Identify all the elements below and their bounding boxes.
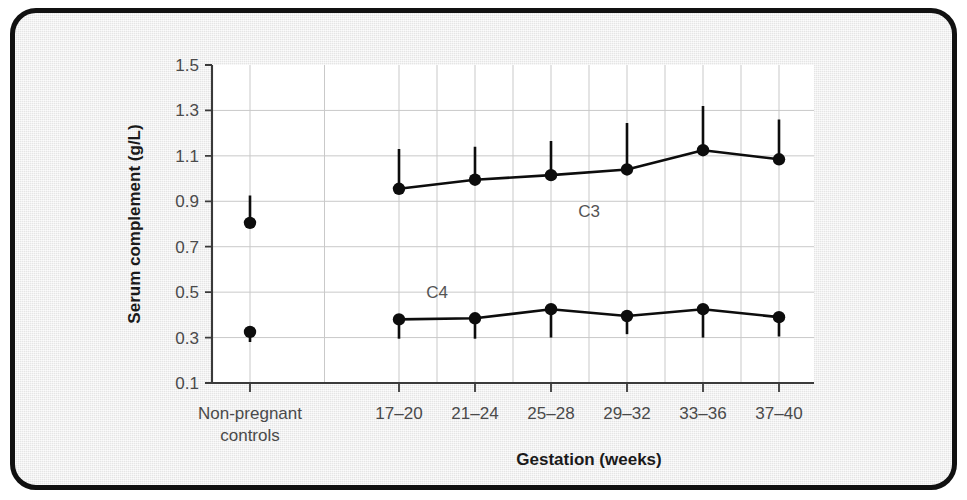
x-axis-tick-labels: Non-pregnantcontrols17–2021–2425–2829–32…	[198, 404, 803, 445]
data-point-marker	[621, 163, 633, 175]
data-point-marker	[469, 174, 481, 186]
data-point-marker	[773, 311, 785, 323]
data-point-marker	[244, 217, 256, 229]
y-tick-label: 0.7	[175, 238, 199, 257]
series-label-c4: C4	[426, 283, 448, 302]
data-point-marker	[469, 312, 481, 324]
series-label-c3: C3	[578, 202, 600, 221]
x-tick-label: 33–36	[679, 404, 726, 423]
y-tick-label: 0.1	[175, 374, 199, 393]
data-point-marker	[697, 303, 709, 315]
y-tick-label: 0.5	[175, 283, 199, 302]
x-tick-label: 21–24	[451, 404, 498, 423]
y-tick-label: 0.3	[175, 329, 199, 348]
y-tick-label: 0.9	[175, 192, 199, 211]
data-point-marker	[545, 303, 557, 315]
x-tick-label: controls	[220, 426, 280, 445]
y-axis-tick-labels: 0.10.30.50.70.91.11.31.5	[175, 56, 199, 393]
y-tick-label: 1.3	[175, 101, 199, 120]
x-tick-label: 17–20	[375, 404, 422, 423]
data-point-marker	[244, 326, 256, 338]
data-point-marker	[697, 144, 709, 156]
complement-line-chart: 0.10.30.50.70.91.11.31.5 Non-pregnantcon…	[10, 8, 957, 490]
figure-frame: 0.10.30.50.70.91.11.31.5 Non-pregnantcon…	[10, 8, 957, 490]
data-point-marker	[393, 313, 405, 325]
data-point-marker	[621, 310, 633, 322]
y-tick-label: 1.5	[175, 56, 199, 75]
data-point-marker	[393, 183, 405, 195]
y-tick-label: 1.1	[175, 147, 199, 166]
data-point-marker	[773, 153, 785, 165]
x-tick-label: 37–40	[755, 404, 802, 423]
data-point-marker	[545, 169, 557, 181]
x-tick-label: 29–32	[603, 404, 650, 423]
x-tick-label: 25–28	[527, 404, 574, 423]
x-tick-label: Non-pregnant	[198, 404, 302, 423]
x-axis-title: Gestation (weeks)	[516, 450, 662, 469]
y-axis-title: Serum complement (g/L)	[125, 124, 144, 323]
